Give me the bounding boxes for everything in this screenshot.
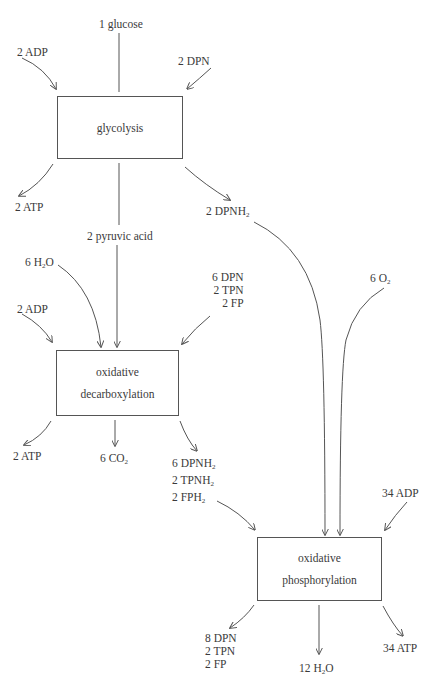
reduced-item: 6 DPNH2 [172,457,215,474]
glycolysis-to-atp-arrow [19,164,53,196]
decarboxylation-reduced-list: 6 DPNH2 2 TPNH2 2 FPH2 [172,457,215,508]
oxidative-phosphorylation-box: oxidative phosphorylation [257,537,382,601]
h2o-post: O [325,662,333,674]
adp-to-decarboxylation-arrow [22,314,52,342]
phosphorylation-to-atp-arrow [383,606,403,636]
co2-sub: 2 [125,458,129,466]
reduced-item: 2 FPH2 [172,491,215,508]
dpnh2-to-phosphorylation-arrow [254,222,325,535]
h2o-to-decarboxylation-arrow [58,265,101,347]
h2o-pre: 6 H [25,256,42,268]
phosphorylation-to-cofactors-arrow [230,605,254,628]
phosphorylation-cofactors-list: 8 DPN 2 TPN 2 FP [205,632,237,671]
glycolysis-box: glycolysis [57,96,183,159]
decarboxylation-co2-label: 6 CO2 [100,452,128,469]
glycolysis-atp-label: 2 ATP [15,201,43,214]
decarboxylation-label-line2: decarboxylation [80,383,154,405]
glycolysis-to-dpnh2-arrow [185,167,230,200]
reduced-to-phosphorylation-arrow [217,501,255,530]
h2o-pre: 12 H [299,662,322,674]
decarboxylation-to-atp-arrow [24,421,51,445]
cofactor-item: 2 TPN [212,284,244,297]
decarboxylation-h2o-label: 6 H2O [25,256,54,273]
phosphorylation-label-line1: oxidative [298,547,341,569]
decarboxylation-cofactors-list: 6 DPN 2 TPN 2 FP [212,271,244,310]
dpnh2-text: 2 DPNH [206,205,246,217]
adp-to-phosphorylation-arrow [385,502,407,530]
adp-to-glycolysis-arrow [22,58,56,89]
h2o-post: O [45,256,53,268]
cofactor-item: 2 FP [205,658,237,671]
glycolysis-dpnh2-label: 2 DPNH2 [206,205,249,222]
cofactor-item: 6 DPN [212,271,244,284]
phosphorylation-h2o-label: 12 H2O [299,662,334,679]
reduced-item: 2 TPNH2 [172,474,215,491]
glycolysis-label: glycolysis [97,117,144,139]
glycolysis-dpn-label: 2 DPN [178,55,210,68]
cofactor-item: 2 FP [212,297,244,310]
decarboxylation-atp-label: 2 ATP [13,450,41,463]
co2-pre: 6 CO [100,452,125,464]
pyruvic-acid-label: 2 pyruvic acid [87,230,153,243]
dpn-to-glycolysis-arrow [187,68,211,89]
o2-pre: 6 O [370,272,387,284]
phosphorylation-adp-label: 34 ADP [382,487,419,500]
o2-sub: 2 [387,278,391,286]
dpnh2-sub: 2 [246,211,250,219]
o2-to-phosphorylation-arrow [340,288,384,535]
phosphorylation-o2-label: 6 O2 [370,272,390,289]
cofactors-to-decarboxylation-arrow [182,316,210,344]
glucose-label: 1 glucose [99,18,143,31]
decarboxylation-to-reduced-arrow [180,421,197,451]
decarboxylation-label-line1: oxidative [96,361,139,383]
oxidative-decarboxylation-box: oxidative decarboxylation [56,350,179,416]
decarboxylation-adp-label: 2 ADP [17,303,48,316]
phosphorylation-atp-label: 34 ATP [383,642,417,655]
glycolysis-adp-label: 2 ADP [17,46,48,59]
phosphorylation-label-line2: phosphorylation [282,569,357,591]
cofactor-item: 2 TPN [205,645,237,658]
cofactor-item: 8 DPN [205,632,237,645]
